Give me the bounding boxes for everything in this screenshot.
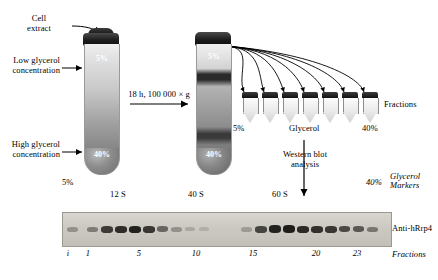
gel-band — [367, 227, 378, 232]
tube1-bottom: 40% — [84, 148, 120, 175]
fraction-start-percent: 5% — [233, 124, 245, 134]
gel-band — [171, 227, 182, 232]
gel-band — [129, 226, 141, 233]
fraction-tube-tip — [243, 112, 257, 123]
gel-band — [143, 226, 155, 233]
svedberg-marker: 12 S — [104, 190, 132, 200]
tube1-bottom-percent: 40% — [85, 150, 119, 159]
fraction-arrow-4 — [224, 46, 304, 92]
gel-band — [115, 226, 127, 233]
fraction-tube-tip — [363, 112, 377, 123]
fraction-tube — [322, 92, 338, 122]
fraction-tube — [282, 92, 298, 122]
fractions-bottom-label: Fractions — [392, 250, 426, 260]
gel-band — [101, 226, 113, 233]
gel-band — [339, 226, 350, 232]
gel-band — [87, 227, 98, 232]
tube2-bottom-percent: 40% — [197, 150, 231, 159]
western-blot-gel — [62, 212, 392, 247]
fraction-tube-body — [303, 98, 319, 114]
fraction-tube-tip — [323, 112, 337, 123]
gel-band — [67, 227, 78, 232]
fraction-tube — [262, 92, 278, 122]
gel-band — [157, 226, 168, 232]
high-glycerol-label: High glycerol concentration — [0, 140, 60, 159]
fraction-end-percent: 40% — [362, 124, 378, 134]
fractions-right-label: Fractions — [384, 100, 417, 110]
antibody-label: Anti-hRrp4 — [392, 224, 432, 234]
lane-number: i — [59, 249, 77, 259]
gel-band — [325, 226, 337, 233]
lane-number: 10 — [187, 249, 205, 259]
glycerol-center-label: Glycerol — [289, 124, 320, 134]
fraction-tube-body — [323, 98, 339, 114]
svedberg-marker: 40 S — [182, 190, 210, 200]
fraction-arrow-3 — [224, 46, 284, 92]
lane-number: 23 — [348, 249, 366, 259]
gradient-right-percent: 40% — [366, 178, 382, 188]
cell-extract-label: Cell extract — [6, 14, 72, 33]
fraction-tube-body — [283, 98, 299, 114]
fraction-tube-body — [263, 98, 279, 114]
centrifugation-label: 18 h, 100 000 × g — [122, 90, 196, 100]
lane-number: 15 — [244, 249, 262, 259]
tube1-top-percent: 5% — [85, 54, 119, 63]
gel-band — [255, 226, 267, 233]
tube2-top-percent: 5% — [197, 52, 231, 61]
western-blot-label: Western blot analysis — [272, 150, 338, 169]
gel-band — [311, 226, 323, 233]
gel-band — [283, 225, 295, 233]
figure-root: Cell extract Low glycerol concentration … — [0, 0, 438, 280]
fraction-tube-body — [243, 98, 259, 114]
fraction-arrow-7 — [224, 46, 364, 92]
fraction-tube-body — [343, 98, 359, 114]
glycerol-markers-label: Glycerol Markers — [390, 172, 436, 191]
fraction-tube-tip — [303, 112, 317, 123]
gradient-tube-after: 5% 40% — [196, 44, 230, 172]
fraction-tube-tip — [343, 112, 357, 123]
gel-band — [241, 227, 252, 232]
gel-band — [269, 225, 281, 233]
tube2-body: 5% — [196, 44, 232, 156]
fraction-tube — [302, 92, 318, 122]
fraction-tube-body — [363, 98, 379, 114]
gel-band — [297, 226, 309, 233]
gradient-left-percent: 5% — [62, 178, 74, 188]
low-glycerol-label: Low glycerol concentration — [0, 56, 60, 75]
fraction-tube-tip — [263, 112, 277, 123]
gradient-tube-before: 5% 40% — [84, 44, 118, 172]
lane-number: 20 — [307, 249, 325, 259]
lane-number: 5 — [130, 249, 148, 259]
tube1-body: 5% — [84, 44, 120, 156]
fraction-tube — [242, 92, 258, 122]
lane-number: 1 — [79, 249, 97, 259]
tube2-bottom: 40% — [196, 148, 232, 175]
gel-band — [185, 227, 195, 231]
svedberg-marker: 60 S — [266, 190, 294, 200]
fraction-tube — [362, 92, 378, 122]
gel-band — [199, 227, 209, 231]
fraction-tube-tip — [283, 112, 297, 123]
gel-band — [353, 226, 364, 232]
fraction-tube — [342, 92, 358, 122]
